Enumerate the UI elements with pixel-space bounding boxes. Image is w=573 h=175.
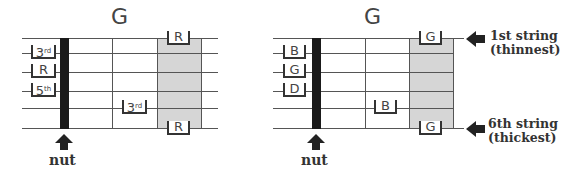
nut-label: nut	[301, 152, 328, 168]
label-line: (thickest)	[488, 131, 558, 145]
note-label-g-string6: G	[419, 121, 442, 135]
string-5	[273, 108, 454, 109]
sixth-string-arrow-icon	[466, 121, 486, 137]
label-line: 6th string	[488, 117, 558, 131]
label-line: 1st string	[490, 29, 560, 43]
note-text: G	[425, 119, 435, 134]
note-text: D	[289, 81, 299, 96]
chord-title: G	[364, 4, 381, 29]
note-label-b-open: B	[283, 45, 306, 59]
note-label-g-open: G	[283, 64, 306, 78]
shaded-third-fret	[409, 38, 454, 129]
note-text: B	[381, 98, 390, 113]
note-text: B	[290, 43, 299, 58]
fret-line	[365, 38, 366, 129]
label-line: (thinnest)	[490, 43, 560, 57]
note-label-b-string5: B	[374, 100, 397, 114]
sixth-string-label: 6th string (thickest)	[488, 117, 558, 145]
note-text: G	[425, 29, 435, 44]
note-text: G	[289, 62, 299, 77]
nut-bar	[312, 38, 321, 129]
first-string-arrow-icon	[466, 31, 486, 47]
note-label-d-open: D	[283, 83, 306, 97]
note-label-g-string1: G	[419, 31, 442, 45]
right-fretboard-diagram: G B G D G B G nut 1st string (thinnest) …	[0, 0, 573, 175]
first-string-label: 1st string (thinnest)	[490, 29, 560, 57]
